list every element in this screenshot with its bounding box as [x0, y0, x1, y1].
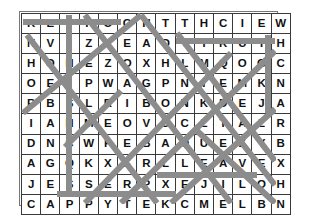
grid-cell[interactable]: E [41, 174, 60, 194]
grid-cell[interactable]: R [22, 94, 41, 114]
grid-cell[interactable]: K [156, 194, 175, 214]
grid-cell[interactable]: G [252, 54, 271, 74]
grid-cell[interactable]: V [233, 154, 252, 174]
grid-cell[interactable]: G [137, 74, 156, 94]
grid-cell[interactable]: N [175, 74, 194, 94]
grid-cell[interactable]: D [214, 94, 233, 114]
grid-cell[interactable]: I [60, 74, 79, 94]
grid-cell[interactable]: A [118, 74, 137, 94]
grid-cell[interactable]: B [271, 134, 290, 154]
grid-cell[interactable]: U [156, 114, 175, 134]
grid-cell[interactable]: W [271, 14, 290, 34]
grid-cell[interactable]: Q [60, 154, 79, 174]
grid-cell[interactable]: A [41, 114, 60, 134]
grid-cell[interactable]: N [22, 34, 41, 54]
grid-cell[interactable]: Q [214, 54, 233, 74]
grid-cell[interactable]: E [98, 114, 117, 134]
grid-cell[interactable]: N [60, 54, 79, 74]
grid-cell[interactable]: X [98, 154, 117, 174]
grid-cell[interactable]: G [41, 154, 60, 174]
grid-cell[interactable]: S [60, 94, 79, 114]
grid-cell[interactable]: C [175, 194, 194, 214]
grid-cell[interactable]: E [41, 74, 60, 94]
grid-cell[interactable]: U [233, 34, 252, 54]
grid-cell[interactable]: E [214, 134, 233, 154]
grid-cell[interactable]: A [271, 94, 290, 114]
grid-cell[interactable]: X [137, 54, 156, 74]
grid-cell[interactable]: V [41, 34, 60, 54]
grid-cell[interactable]: H [156, 54, 175, 74]
grid-cell[interactable]: I [60, 34, 79, 54]
grid-cell[interactable]: Y [98, 194, 117, 214]
grid-cell[interactable]: Z [252, 114, 271, 134]
grid-cell[interactable]: B [41, 94, 60, 114]
grid-cell[interactable]: H [137, 14, 156, 34]
grid-cell[interactable]: I [194, 74, 213, 94]
grid-cell[interactable]: X [156, 174, 175, 194]
grid-cell[interactable]: E [137, 194, 156, 214]
grid-cell[interactable]: J [22, 174, 41, 194]
grid-cell[interactable]: T [118, 194, 137, 214]
grid-cell[interactable]: S [60, 174, 79, 194]
grid-cell[interactable]: N [271, 194, 290, 214]
grid-cell[interactable]: P [156, 74, 175, 94]
grid-cell[interactable]: E [233, 94, 252, 114]
grid-cell[interactable]: N [175, 94, 194, 114]
grid-cell[interactable]: Q [175, 134, 194, 154]
grid-cell[interactable]: E [98, 174, 117, 194]
grid-cell[interactable]: R [98, 94, 117, 114]
grid-cell[interactable]: P [98, 134, 117, 154]
grid-cell[interactable]: E [41, 14, 60, 34]
grid-cell[interactable]: E [214, 74, 233, 94]
grid-cell[interactable]: B [137, 134, 156, 154]
grid-cell[interactable]: W [98, 74, 117, 94]
grid-cell[interactable]: I [233, 14, 252, 34]
grid-cell[interactable]: L [98, 34, 117, 54]
grid-cell[interactable]: N [41, 134, 60, 154]
grid-cell[interactable]: M [79, 114, 98, 134]
grid-cell[interactable]: O [156, 34, 175, 54]
grid-cell[interactable]: H [271, 174, 290, 194]
grid-cell[interactable]: U [194, 134, 213, 154]
grid-cell[interactable]: A [233, 114, 252, 134]
grid-cell[interactable]: B [252, 194, 271, 214]
grid-cell[interactable]: E [79, 54, 98, 74]
grid-cell[interactable]: R [214, 34, 233, 54]
grid-cell[interactable]: L [175, 54, 194, 74]
grid-cell[interactable]: L [79, 94, 98, 114]
grid-cell[interactable]: L [233, 194, 252, 214]
grid-cell[interactable]: O [41, 54, 60, 74]
grid-cell[interactable]: M [233, 74, 252, 94]
grid-cell[interactable]: M [194, 54, 213, 74]
grid-cell[interactable]: I [214, 174, 233, 194]
grid-cell[interactable]: L [175, 154, 194, 174]
grid-cell[interactable]: C [271, 54, 290, 74]
grid-cell[interactable]: J [252, 94, 271, 114]
grid-cell[interactable]: H [60, 114, 79, 134]
grid-cell[interactable]: M [194, 194, 213, 214]
grid-cell[interactable]: O [156, 94, 175, 114]
grid-cell[interactable]: F [60, 14, 79, 34]
grid-cell[interactable]: J [194, 174, 213, 194]
grid-cell[interactable]: C [22, 194, 41, 214]
grid-cell[interactable]: I [22, 114, 41, 134]
grid-cell[interactable]: I [118, 94, 137, 114]
grid-cell[interactable]: L [233, 174, 252, 194]
grid-cell[interactable]: P [79, 74, 98, 94]
grid-cell[interactable]: E [118, 154, 137, 174]
grid-cell[interactable]: C [175, 114, 194, 134]
grid-cell[interactable]: L [156, 154, 175, 174]
grid-cell[interactable]: E [252, 14, 271, 34]
grid-cell[interactable]: K [194, 94, 213, 114]
grid-cell[interactable]: P [60, 194, 79, 214]
grid-cell[interactable]: T [214, 114, 233, 134]
grid-cell[interactable]: H [271, 34, 290, 54]
grid-cell[interactable]: T [156, 14, 175, 34]
grid-cell[interactable]: K [79, 154, 98, 174]
grid-cell[interactable]: G [118, 14, 137, 34]
grid-cell[interactable]: T [175, 34, 194, 54]
grid-cell[interactable]: A [156, 134, 175, 154]
grid-cell[interactable]: O [98, 14, 117, 34]
grid-cell[interactable]: N [271, 74, 290, 94]
grid-cell[interactable]: Z [233, 134, 252, 154]
